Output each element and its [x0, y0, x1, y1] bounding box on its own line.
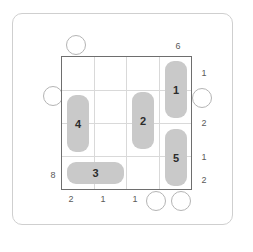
tile-2-label: 2	[140, 115, 146, 127]
clue-right-row-1: 1	[197, 68, 211, 78]
marker-bottom-right-circle[interactable]	[171, 191, 191, 211]
marker-bottom-left-circle[interactable]	[146, 191, 166, 211]
tile-4-label: 4	[75, 118, 81, 130]
clue-bottom-col-2: 1	[96, 194, 110, 204]
tile-5[interactable]: 5	[165, 129, 187, 186]
tile-4[interactable]: 4	[67, 95, 89, 152]
clue-bottom-col-1: 2	[64, 194, 78, 204]
clue-right-row-4: 2	[197, 175, 211, 185]
tile-2[interactable]: 2	[132, 92, 154, 149]
clue-right-row-2: 2	[197, 118, 211, 128]
clue-left-row-4: 8	[46, 170, 60, 180]
tile-1-label: 1	[173, 84, 179, 96]
tile-3[interactable]: 3	[67, 162, 124, 184]
clue-bottom-col-3: 1	[128, 194, 142, 204]
clue-right-row-3: 1	[197, 152, 211, 162]
marker-top-circle[interactable]	[66, 35, 86, 55]
clue-top-col-4: 6	[171, 41, 185, 51]
puzzle-canvas: 6 1 2 1 2 8 2 1 1 4 2 1 5	[0, 0, 253, 252]
marker-left-circle[interactable]	[43, 86, 63, 106]
marker-right-circle[interactable]	[192, 88, 212, 108]
tile-5-label: 5	[173, 152, 179, 164]
tile-3-label: 3	[92, 167, 98, 179]
puzzle-grid[interactable]: 4 2 1 5 3	[61, 56, 192, 190]
tile-1[interactable]: 1	[165, 61, 187, 118]
